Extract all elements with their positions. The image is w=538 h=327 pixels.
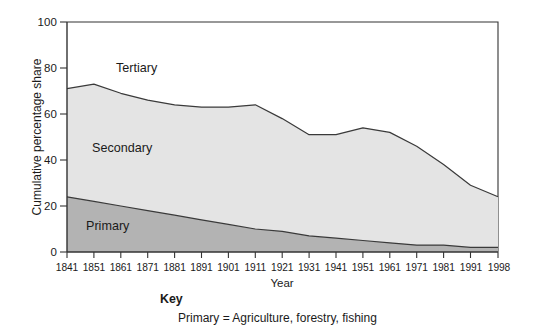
- series-label-tertiary: Tertiary: [116, 61, 158, 75]
- x-tick-label-1941: 1941: [325, 262, 348, 273]
- x-tick-label-1861: 1861: [110, 262, 133, 273]
- cumulative-share-area-chart: 0 20 40 60 80 100: [0, 0, 538, 327]
- stacked-areas: [67, 84, 498, 252]
- x-axis-ticks: [67, 252, 498, 258]
- x-tick-label-1911: 1911: [245, 262, 267, 273]
- y-tick-label-100: 100: [38, 16, 58, 28]
- x-tick-label-1841: 1841: [56, 262, 79, 273]
- y-axis-title: Cumulative percentage share: [30, 58, 44, 215]
- x-tick-label-1921: 1921: [271, 262, 294, 273]
- y-axis-ticks: [60, 22, 67, 252]
- y-tick-label-0: 0: [51, 246, 58, 258]
- y-tick-label-80: 80: [44, 62, 57, 74]
- x-tick-label-1871: 1871: [137, 262, 160, 273]
- series-label-secondary: Secondary: [92, 141, 153, 155]
- y-tick-label-40: 40: [44, 154, 57, 166]
- key-entry-primary: Primary = Agriculture, forestry, fishing: [178, 311, 377, 325]
- x-axis-title: Year: [270, 277, 293, 289]
- key-block: Key Primary = Agriculture, forestry, fis…: [160, 292, 377, 325]
- key-heading: Key: [160, 292, 183, 306]
- x-tick-label-1991: 1991: [460, 262, 483, 273]
- x-axis-tick-labels: 1841 1851 1861 1871 1881 1891 1901 1911 …: [56, 262, 511, 273]
- x-tick-label-1951: 1951: [352, 262, 375, 273]
- x-tick-label-1891: 1891: [190, 262, 213, 273]
- x-tick-label-1961: 1961: [379, 262, 402, 273]
- x-tick-label-1901: 1901: [217, 262, 240, 273]
- y-tick-label-60: 60: [44, 108, 57, 120]
- x-tick-label-1851: 1851: [83, 262, 106, 273]
- series-label-primary: Primary: [86, 219, 130, 233]
- x-tick-label-1931: 1931: [298, 262, 321, 273]
- figure-container: 0 20 40 60 80 100: [0, 0, 538, 327]
- y-tick-label-20: 20: [44, 200, 57, 212]
- x-tick-label-1981: 1981: [432, 262, 455, 273]
- x-tick-label-1881: 1881: [163, 262, 186, 273]
- x-tick-label-1998: 1998: [488, 262, 511, 273]
- x-tick-label-1971: 1971: [406, 262, 429, 273]
